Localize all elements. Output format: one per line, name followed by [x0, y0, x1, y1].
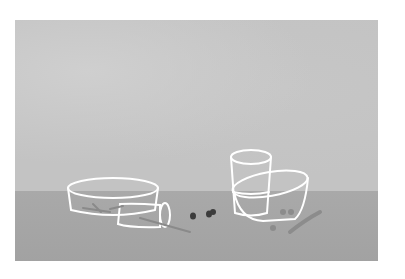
- objects-layer: [15, 20, 378, 261]
- still-life-painting: [15, 20, 378, 261]
- dark-beans: [190, 209, 216, 220]
- wavy-twig: [290, 212, 320, 232]
- round-glass-dish: [68, 178, 158, 215]
